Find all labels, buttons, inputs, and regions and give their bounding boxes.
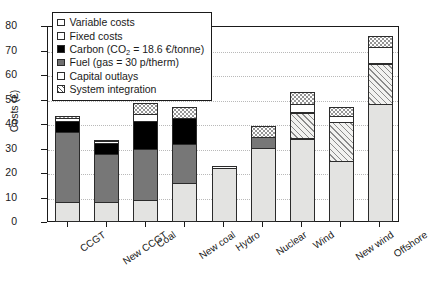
legend-label: System integration [70, 84, 157, 95]
bar-new-wind [329, 107, 354, 221]
x-tick-label: CCGT [77, 229, 107, 254]
bar-segment-fuel [172, 144, 197, 183]
y-tick-label: 70 [0, 45, 17, 56]
legend-item: System integration [57, 82, 204, 95]
bar-segment-capital [172, 183, 197, 222]
x-tick-label: Wind [311, 229, 336, 251]
bar-segment-carbon [133, 121, 158, 150]
bar-segment-capital [290, 139, 315, 222]
bar-ccgt [55, 116, 80, 221]
bar-segment-capital [55, 202, 80, 222]
legend-label: Capital outlays [70, 71, 139, 82]
bar-segment-sysint [368, 64, 393, 106]
bar-coal [133, 103, 158, 221]
x-tick-label: Hydro [234, 229, 262, 253]
legend-swatch-fixed-icon [57, 32, 65, 40]
bar-segment-capital [251, 148, 276, 222]
x-tick-mark [340, 222, 341, 227]
bar-segment-capital [212, 168, 237, 222]
chart-legend: Variable costsFixed costsCarbon (CO2 = 1… [52, 12, 212, 101]
legend-swatch-carbon-icon [57, 45, 65, 53]
bar-segment-capital [133, 200, 158, 222]
x-tick-mark [145, 222, 146, 227]
x-tick-mark [106, 222, 107, 227]
legend-item: Variable costs [57, 16, 204, 29]
legend-label: Fuel (gas = 30 p/therm) [70, 57, 179, 68]
y-tick-mark [41, 222, 47, 223]
legend-item: Fixed costs [57, 29, 204, 42]
y-tick-label: 10 [0, 192, 17, 203]
x-tick-mark [67, 222, 68, 227]
x-tick-label: Nuclear [274, 229, 309, 257]
legend-item: Fuel (gas = 30 p/therm) [57, 56, 204, 69]
bar-segment-capital [94, 202, 119, 222]
bar-wind [290, 92, 315, 221]
legend-swatch-fuel-icon [57, 59, 65, 67]
legend-label: Fixed costs [70, 31, 123, 42]
x-tick-mark [184, 222, 185, 227]
bar-segment-fuel [94, 154, 119, 203]
y-tick-label: 40 [0, 118, 17, 129]
x-tick-mark [223, 222, 224, 227]
bar-segment-fixed [368, 47, 393, 64]
bar-segment-fuel [133, 149, 158, 200]
bar-segment-carbon [172, 118, 197, 145]
legend-item: Capital outlays [57, 69, 204, 82]
bar-segment-fuel [55, 132, 80, 203]
x-tick-label: New coal [197, 229, 237, 261]
legend-label: Variable costs [70, 17, 135, 28]
bar-segment-sysint [290, 113, 315, 140]
bar-segment-capital [329, 161, 354, 222]
y-tick-label: 20 [0, 167, 17, 178]
bar-new-coal [172, 107, 197, 221]
legend-swatch-variable-icon [57, 19, 65, 27]
legend-swatch-capital-icon [57, 72, 65, 80]
bar-nuclear [251, 126, 276, 221]
bar-segment-sysint [329, 122, 354, 161]
x-tick-label: New wind [354, 229, 396, 262]
bar-offshore [368, 36, 393, 221]
bar-new-ccgt [94, 140, 119, 221]
bar-segment-capital [368, 104, 393, 222]
y-tick-label: 60 [0, 69, 17, 80]
x-tick-label: Offshore [392, 229, 430, 259]
legend-swatch-sysint-icon [57, 85, 65, 93]
bar-hydro [212, 166, 237, 221]
legend-label: Carbon (CO2 = 18.6 €/tonne) [70, 44, 205, 55]
y-tick-label: 50 [0, 94, 17, 105]
y-tick-label: 80 [0, 20, 17, 31]
x-tick-mark [262, 222, 263, 227]
y-tick-label: 30 [0, 143, 17, 154]
x-tick-mark [379, 222, 380, 227]
y-tick-label: 0 [0, 216, 17, 227]
x-tick-mark [301, 222, 302, 227]
legend-item: Carbon (CO2 = 18.6 €/tonne) [57, 43, 204, 56]
